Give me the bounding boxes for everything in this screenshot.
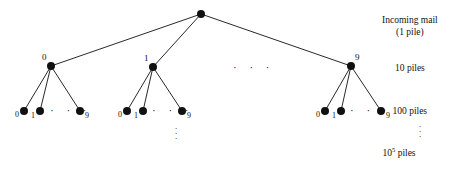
level1-horizontal-ellipsis: · · · [233, 62, 275, 73]
side-vertical-ellipsis: . . . [419, 122, 421, 137]
annotation-pow-unit: piles [395, 148, 415, 158]
leaf-label-0-1: 1 [31, 112, 35, 120]
tree-node-leaf-1-0 [123, 107, 131, 115]
tree-node-level1-1 [149, 63, 157, 71]
leaf-horizontal-ellipsis-0: · · · [50, 105, 92, 116]
annotation-pow-base: 10 [383, 148, 393, 158]
leaf-label-9-1: 1 [332, 112, 336, 120]
annotation-incoming-mail-line2: (1 pile) [382, 28, 438, 38]
tree-nodes [20, 10, 385, 115]
tree-node-leaf-9-0 [321, 107, 329, 115]
dot: . [419, 132, 421, 137]
leaf-label-0-0: 0 [15, 111, 19, 119]
tree-node-level1-9 [347, 62, 355, 70]
edge-9-to-0 [325, 66, 351, 111]
edge-root-to-0 [51, 14, 201, 66]
tree-node-leaf-9-1 [337, 107, 345, 115]
node-label-level1-1: 1 [144, 54, 149, 63]
tree-edges [24, 14, 381, 111]
edge-1-to-0 [127, 67, 153, 111]
node-label-level1-0: 0 [42, 53, 47, 62]
tree-node-leaf-1-1 [139, 107, 147, 115]
edge-root-to-9 [201, 14, 351, 66]
leaf-label-1-1: 1 [134, 112, 138, 120]
node-label-level1-9: 9 [355, 53, 360, 62]
tree-node-leaf-0-1 [36, 107, 44, 115]
bottom-vertical-ellipsis: . . . [175, 124, 177, 139]
tree-node-root [197, 10, 205, 18]
tree-node-leaf-0-0 [20, 107, 28, 115]
leaf-label-9-0: 0 [316, 111, 320, 119]
annotation-incoming-mail-line1: Incoming mail [382, 15, 438, 25]
leaf-horizontal-ellipsis-1: · · · [152, 105, 194, 116]
radix-tree-figure: 019019019019 · · ·· · ·· · ·· · · . . . … [0, 0, 470, 171]
edge-0-to-0 [24, 66, 51, 111]
annotation-incoming-mail: Incoming mail (1 pile) [382, 16, 438, 37]
leaf-horizontal-ellipsis-9: · · · [350, 105, 392, 116]
leaf-label-1-0: 0 [118, 111, 122, 119]
dot: . [175, 134, 177, 139]
tree-node-level1-0 [47, 62, 55, 70]
annotation-hundred-piles: 100 piles [393, 107, 428, 117]
annotation-ten-piles: 10 piles [395, 64, 425, 74]
annotation-ten-pow-five-piles: 105 piles [383, 149, 416, 159]
